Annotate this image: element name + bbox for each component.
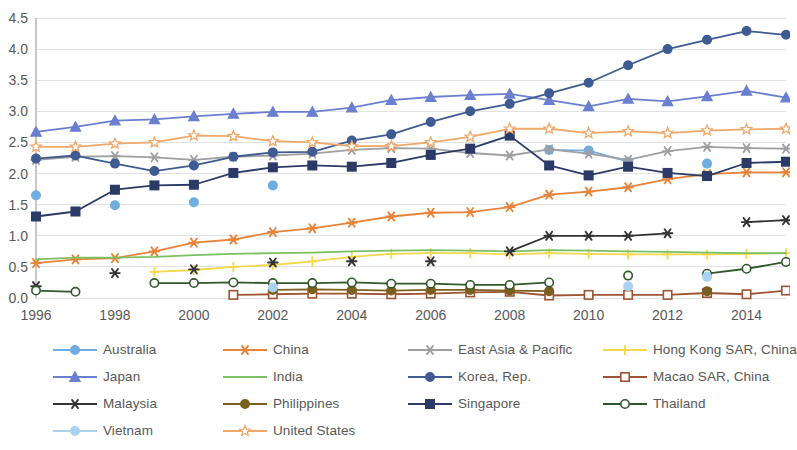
legend-item-china[interactable]: China [222,336,407,363]
legend-key-icon [602,369,648,385]
legend-item-macao-sar-china[interactable]: Macao SAR, China [602,363,790,390]
data-point-marker [663,45,671,53]
legend-marker [222,423,268,439]
data-point-marker [662,128,672,138]
legend-item-vietnam[interactable]: Vietnam [52,417,222,444]
data-point-marker [110,269,120,277]
data-point-marker [32,154,40,162]
data-point-marker [703,287,711,295]
data-point-marker [32,212,40,220]
legend-key-icon [602,342,648,358]
data-point-marker [308,148,316,156]
x-axis-tick-label: 2006 [415,307,446,323]
legend-label: India [273,369,303,384]
data-point-marker [426,399,434,407]
legend-item-united-states[interactable]: United States [222,417,407,444]
legend-label: China [273,342,309,357]
data-point-marker [545,161,553,169]
legend-marker [602,342,648,358]
data-point-marker [703,159,711,167]
data-point-marker [703,36,711,44]
data-point-marker [663,291,671,299]
legend-item-japan[interactable]: Japan [52,363,222,390]
data-point-marker [427,151,435,159]
legend-item-thailand[interactable]: Thailand [602,390,790,417]
data-point-marker [240,425,250,435]
legend-label: East Asia & Pacific [458,342,572,357]
data-point-marker [782,286,790,294]
data-point-marker [111,201,119,209]
data-point-marker [624,163,632,171]
data-point-marker [307,137,317,147]
chart-svg: 0.00.51.01.52.02.53.03.54.04.51996199820… [0,0,790,332]
data-point-marker [624,282,632,290]
data-point-marker [505,151,515,159]
data-point-marker [228,131,238,141]
data-point-marker [545,89,553,97]
data-point-marker [465,248,475,258]
legend-item-australia[interactable]: Australia [52,336,222,363]
data-point-marker [190,161,198,169]
data-point-marker [71,207,79,215]
data-point-marker [269,283,277,291]
x-axis-tick-label: 2000 [178,307,209,323]
legend-item-singapore[interactable]: Singapore [407,390,602,417]
data-point-marker [702,125,712,135]
y-axis-tick-label: 4.5 [9,10,29,26]
data-point-marker [505,281,513,289]
data-point-marker [347,219,357,227]
y-axis-tick-label: 2.0 [9,166,29,182]
data-point-marker [150,167,158,175]
data-point-marker [425,345,435,353]
legend-label: Hong Kong SAR, China [653,342,797,357]
legend-item-korea-rep[interactable]: Korea, Rep. [407,363,602,390]
legend-marker [407,342,453,358]
plot-area: 0.00.51.01.52.02.53.03.54.04.51996199820… [0,0,790,332]
data-point-marker [742,218,752,226]
data-point-marker [269,163,277,171]
series-line [36,291,75,292]
legend-item-india[interactable]: India [222,363,407,390]
data-point-marker [465,131,475,141]
data-point-marker [702,143,712,151]
x-axis-tick-label: 2014 [731,307,762,323]
data-point-marker [111,186,119,194]
legend-marker [52,396,98,412]
x-axis-tick-label: 2012 [652,307,683,323]
data-point-marker [584,188,594,196]
y-axis-tick-label: 4.0 [9,41,29,57]
data-point-marker [229,291,237,299]
data-point-marker [268,136,278,146]
legend-key-icon [407,369,453,385]
data-point-marker [71,151,79,159]
data-point-marker [584,232,594,240]
data-point-marker [229,169,237,177]
data-point-marker [742,144,752,152]
data-point-marker [781,145,790,153]
legend-item-malaysia[interactable]: Malaysia [52,390,222,417]
legend-item-philippines[interactable]: Philippines [222,390,407,417]
legend-key-icon [222,369,268,385]
data-point-marker [781,168,790,176]
x-axis-tick-label: 2002 [257,307,288,323]
data-point-marker [544,191,554,199]
data-point-marker [741,124,751,134]
legend-item-hong-kong-sar-china[interactable]: Hong Kong SAR, China [602,336,790,363]
series-east-asia-pacific [31,143,790,164]
data-point-marker [623,126,633,136]
data-point-marker [308,161,316,169]
legend-marker [222,342,268,358]
data-point-marker [190,279,198,287]
data-point-marker [782,258,790,266]
x-axis-tick-label: 2004 [336,307,367,323]
data-point-marker [781,123,790,133]
data-point-marker [240,345,250,353]
chart-legend: AustraliaChinaEast Asia & PacificHong Ko… [52,336,790,448]
legend-label: United States [273,423,355,438]
legend-item-east-asia-pacific[interactable]: East Asia & Pacific [407,336,602,363]
legend-key-icon [52,423,98,439]
data-point-marker [229,278,237,286]
data-point-marker [150,247,160,255]
data-point-marker [584,291,592,299]
data-point-marker [307,256,317,266]
